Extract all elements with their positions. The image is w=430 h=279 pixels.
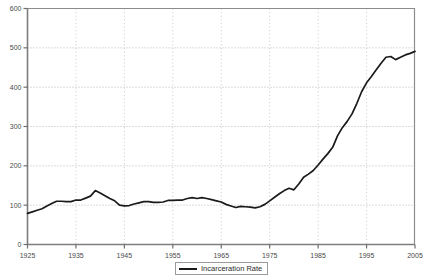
x-tick-label: 1955: [165, 252, 181, 259]
x-tick-label: 1995: [359, 252, 375, 259]
incarceration-rate-chart: 0100200300400500600 19251935194519551965…: [0, 0, 430, 279]
x-tick-label: 1985: [310, 252, 326, 259]
y-tick-label: 600: [10, 5, 22, 12]
x-axis-tick-labels: 192519351945195519651975198519952005: [20, 252, 423, 259]
y-tick-label: 300: [10, 123, 22, 130]
chart-canvas: 0100200300400500600 19251935194519551965…: [0, 0, 430, 279]
legend-label: Incarceration Rate: [201, 265, 262, 273]
x-tick-label: 1945: [117, 252, 133, 259]
x-tick-label: 1925: [20, 252, 36, 259]
y-tick-label: 100: [10, 202, 22, 209]
legend-line-swatch: [179, 268, 197, 270]
y-tick-label: 500: [10, 44, 22, 51]
x-tick-label: 2005: [407, 252, 423, 259]
plot-background: [27, 8, 415, 244]
chart-legend: Incarceration Rate: [175, 262, 268, 275]
x-tick-label: 1965: [213, 252, 229, 259]
y-tick-label: 200: [10, 162, 22, 169]
y-tick-label: 400: [10, 84, 22, 91]
x-tick-label: 1935: [68, 252, 84, 259]
y-axis-tick-labels: 0100200300400500600: [10, 5, 22, 248]
y-tick-label: 0: [18, 241, 22, 248]
x-tick-label: 1975: [262, 252, 278, 259]
